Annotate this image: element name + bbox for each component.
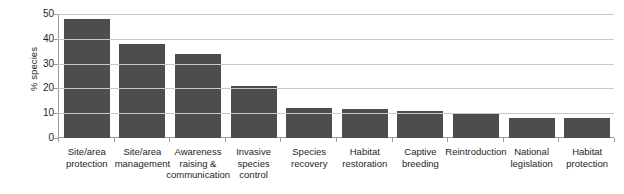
x-axis-category-label-line: Reintroduction bbox=[444, 146, 508, 158]
y-axis-tick-label: 20 bbox=[26, 83, 54, 93]
x-axis-category-label-line: management bbox=[111, 158, 175, 170]
x-axis-tick-mark bbox=[558, 138, 559, 142]
x-axis-category-label-line: Captive bbox=[389, 146, 453, 158]
x-axis-category-label-line: restoration bbox=[333, 158, 397, 170]
x-axis-category-label: Awarenessraising &communication bbox=[166, 146, 230, 181]
y-axis-tick-labels: 01020304050 bbox=[26, 0, 54, 194]
x-axis-tick-mark bbox=[447, 138, 448, 142]
y-axis-tick-mark bbox=[54, 39, 58, 40]
x-axis-category-label: Speciesrecovery bbox=[277, 146, 341, 169]
x-axis-category-label: Invasivespeciescontrol bbox=[222, 146, 286, 181]
bar bbox=[119, 44, 165, 138]
y-axis-tick-mark bbox=[54, 88, 58, 89]
x-axis-category-label-line: Species bbox=[277, 146, 341, 158]
gridline bbox=[58, 88, 614, 89]
gridline bbox=[58, 14, 614, 15]
bar bbox=[64, 19, 110, 138]
x-axis-category-label-line: Invasive bbox=[222, 146, 286, 158]
bar bbox=[231, 86, 277, 138]
plot-area bbox=[58, 14, 614, 138]
x-axis-category-label: Nationallegislation bbox=[500, 146, 564, 169]
bar bbox=[175, 54, 221, 138]
x-axis-tick-mark bbox=[114, 138, 115, 142]
x-axis-tick-mark bbox=[58, 138, 59, 142]
x-axis-tick-mark bbox=[280, 138, 281, 142]
bars-layer bbox=[58, 14, 614, 138]
x-axis-category-label: Site/areamanagement bbox=[111, 146, 175, 169]
x-axis-category-label-line: communication bbox=[166, 169, 230, 181]
x-axis-category-label-line: control bbox=[222, 169, 286, 181]
y-axis-tick-mark bbox=[54, 113, 58, 114]
x-axis-category-label: Habitatrestoration bbox=[333, 146, 397, 169]
x-axis-category-label-line: Habitat bbox=[555, 146, 619, 158]
y-axis-tick-label: 0 bbox=[26, 133, 54, 143]
x-axis-tick-mark bbox=[225, 138, 226, 142]
x-axis-category-label-line: National bbox=[500, 146, 564, 158]
gridline bbox=[58, 39, 614, 40]
x-axis-tick-mark bbox=[336, 138, 337, 142]
bar-chart: % species 01020304050 Site/areaprotectio… bbox=[0, 0, 624, 194]
gridline bbox=[58, 64, 614, 65]
bar bbox=[509, 118, 555, 138]
bar bbox=[564, 118, 610, 138]
y-axis-tick-label: 40 bbox=[26, 34, 54, 44]
y-axis-tick-label: 30 bbox=[26, 59, 54, 69]
x-axis-category-label-line: recovery bbox=[277, 158, 341, 170]
x-axis-category-label-line: raising & bbox=[166, 158, 230, 170]
y-axis-tick-label: 50 bbox=[26, 9, 54, 19]
x-axis-tick-mark bbox=[392, 138, 393, 142]
x-axis-category-label-line: legislation bbox=[500, 158, 564, 170]
x-axis-tick-mark bbox=[169, 138, 170, 142]
y-axis-tick-mark bbox=[54, 14, 58, 15]
x-axis-category-label-line: species bbox=[222, 158, 286, 170]
x-axis-category-label-line: Site/area bbox=[111, 146, 175, 158]
y-axis-tick-label: 10 bbox=[26, 108, 54, 118]
bar bbox=[453, 114, 499, 138]
x-axis-tick-mark bbox=[503, 138, 504, 142]
x-axis-category-label-line: Awareness bbox=[166, 146, 230, 158]
x-axis-category-label-line: Site/area bbox=[55, 146, 119, 158]
bar bbox=[397, 111, 443, 138]
x-axis-category-label-line: Habitat bbox=[333, 146, 397, 158]
x-axis-category-label-line: protection bbox=[555, 158, 619, 170]
x-axis-category-label: Habitatprotection bbox=[555, 146, 619, 169]
x-axis-category-label: Captivebreeding bbox=[389, 146, 453, 169]
x-axis-category-label-line: protection bbox=[55, 158, 119, 170]
gridline bbox=[58, 113, 614, 114]
x-axis-category-label-line: breeding bbox=[389, 158, 453, 170]
x-axis-category-label: Site/areaprotection bbox=[55, 146, 119, 169]
x-axis-category-label: Reintroduction bbox=[444, 146, 508, 158]
x-axis-tick-labels: Site/areaprotectionSite/areamanagementAw… bbox=[58, 146, 614, 194]
y-axis-tick-mark bbox=[54, 64, 58, 65]
x-axis-tick-mark bbox=[614, 138, 615, 142]
x-axis-ticks bbox=[58, 138, 614, 143]
